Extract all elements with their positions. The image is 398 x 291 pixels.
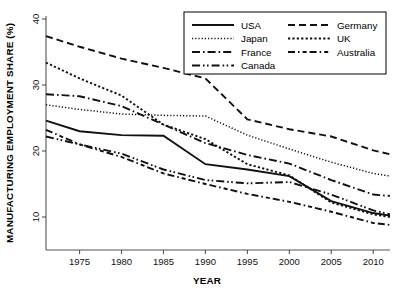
y-tick-label: 40: [30, 14, 41, 25]
x-tick-label: 1985: [153, 256, 174, 267]
y-axis-title: MANUFACTURING EMPLOYMENT SHARE (%): [4, 23, 15, 243]
y-tick-label: 20: [30, 146, 41, 157]
legend-label-canada: Canada: [241, 60, 276, 71]
legend-label-france: France: [241, 47, 272, 58]
x-tick-label: 2005: [321, 256, 342, 267]
x-tick-label: 2010: [363, 256, 384, 267]
legend-label-japan: Japan: [241, 33, 268, 44]
manufacturing-employment-share-line-chart: 10203040 1975198019851990199520002005201…: [0, 0, 398, 291]
chart-container: 10203040 1975198019851990199520002005201…: [0, 0, 398, 291]
x-tick-label: 1975: [69, 256, 90, 267]
x-axis-title: YEAR: [193, 275, 221, 286]
legend-label-usa: USA: [241, 20, 262, 31]
legend-label-uk: UK: [337, 33, 351, 44]
x-tick-label: 2000: [279, 256, 300, 267]
y-tick-label: 10: [30, 212, 41, 223]
y-tick-label: 30: [30, 80, 41, 91]
legend-label-australia: Australia: [337, 47, 376, 58]
x-tick-label: 1990: [195, 256, 216, 267]
chart-legend: USAJapanFranceCanadaGermanyUKAustralia: [184, 12, 386, 74]
x-tick-label: 1995: [237, 256, 258, 267]
x-tick-label: 1980: [111, 256, 132, 267]
legend-label-germany: Germany: [337, 20, 377, 31]
